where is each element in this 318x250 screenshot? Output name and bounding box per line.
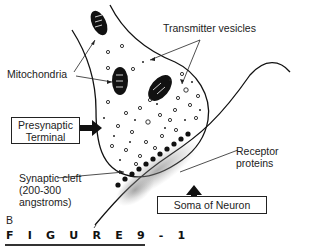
label-receptor-proteins: Receptor proteins	[236, 145, 279, 169]
figure-caption: F I G U R E 9 - 1	[6, 229, 190, 242]
label-synaptic-cleft: Synaptic cleft (200-300 angstroms)	[19, 172, 81, 208]
presynaptic-arrow	[80, 120, 102, 136]
label-mitochondria: Mitochondria	[7, 68, 67, 80]
panel-letter: B	[6, 214, 13, 226]
presynaptic-line2: Terminal	[12, 131, 79, 143]
presynaptic-terminal-box: Presynaptic Terminal	[11, 117, 80, 144]
presynaptic-line1: Presynaptic	[12, 119, 79, 131]
soma-of-neuron-box: Soma of Neuron	[157, 196, 267, 214]
caption-rule	[5, 244, 145, 246]
label-transmitter-vesicles: Transmitter vesicles	[163, 22, 256, 34]
